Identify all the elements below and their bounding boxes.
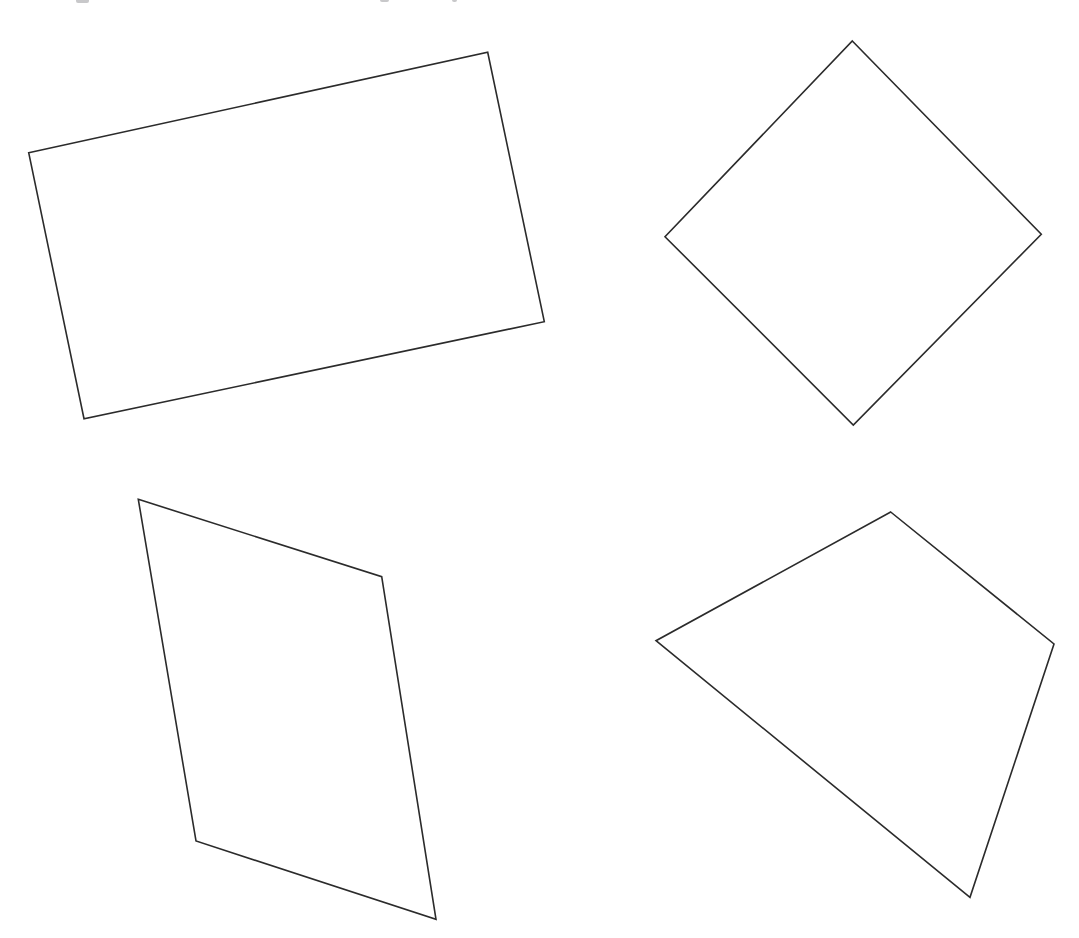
figure-canvas <box>0 0 1079 938</box>
quadrilaterals-figure <box>0 0 1079 938</box>
